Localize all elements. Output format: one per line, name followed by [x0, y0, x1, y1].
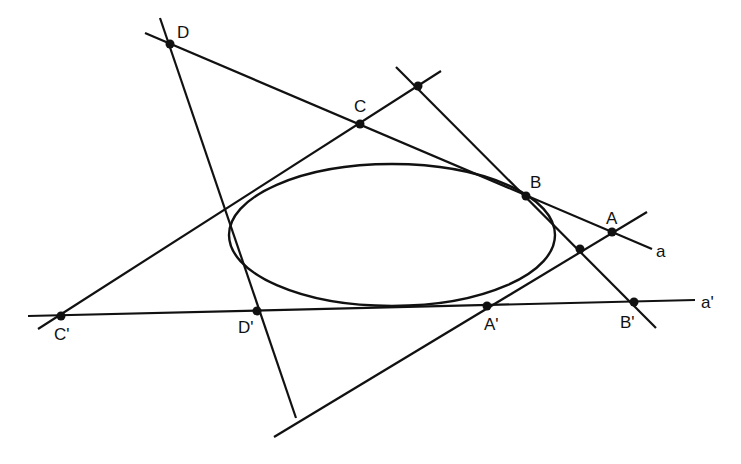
- point-b: [522, 192, 531, 201]
- label-d-prime: D': [238, 318, 254, 337]
- label-b: B: [530, 173, 541, 192]
- label-d: D: [177, 23, 189, 42]
- label-line-a-prime: a': [701, 293, 714, 312]
- line-a-prime: [28, 300, 695, 316]
- line-a: [145, 33, 652, 249]
- label-line-a: a: [656, 242, 666, 261]
- figure-caption: [160, 452, 740, 464]
- point-d-prime: [253, 307, 262, 316]
- point-a: [608, 228, 617, 237]
- conic-tangent-diagram: D C B A a a' C' D' A' B': [0, 0, 741, 464]
- point-a-prime: [483, 302, 492, 311]
- line-aprime-a: [274, 212, 647, 437]
- point-top-intersection: [414, 82, 423, 91]
- label-c: C: [354, 97, 366, 116]
- label-b-prime: B': [620, 313, 635, 332]
- point-d: [166, 40, 175, 49]
- point-c: [356, 120, 365, 129]
- ellipse-conic: [229, 164, 555, 306]
- point-c-prime: [57, 312, 66, 321]
- line-cprime-c: [38, 71, 441, 329]
- label-a-prime: A': [484, 315, 499, 334]
- line-d-dprime: [160, 18, 296, 418]
- point-right-intersection: [576, 245, 585, 254]
- label-c-prime: C': [54, 325, 70, 344]
- point-b-prime: [630, 298, 639, 307]
- label-a: A: [606, 209, 618, 228]
